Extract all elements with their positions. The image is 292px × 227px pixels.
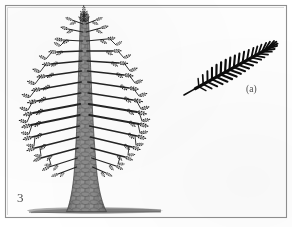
figure-plate	[6, 6, 287, 218]
figure-frame	[6, 6, 287, 218]
part-label-a: (a)	[246, 84, 257, 94]
figure-container: 3 (a)	[0, 0, 292, 227]
figure-number-label: 3	[17, 190, 24, 206]
illustration-canvas	[0, 0, 292, 227]
